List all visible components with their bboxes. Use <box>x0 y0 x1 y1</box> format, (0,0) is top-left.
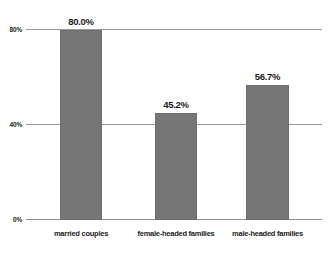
plot-area: 80% 40% 0% 80.0% married couples 45.2% f… <box>26 29 322 220</box>
x-tick-label-female-headed-families: female-headed families <box>137 229 214 238</box>
bar-male-headed-families[interactable]: 56.7% male-headed families <box>246 85 289 220</box>
x-tick-label-married-couples: married couples <box>54 229 108 238</box>
bar-value-label: 56.7% <box>255 71 280 82</box>
x-tick-label-male-headed-families: male-headed families <box>232 229 303 238</box>
bar-female-headed-families[interactable]: 45.2% female-headed families <box>155 113 197 220</box>
y-tick-label-0: 0% <box>13 216 22 223</box>
bar-value-label: 80.0% <box>68 16 93 27</box>
y-tick-label-40: 40% <box>10 121 22 128</box>
y-tick-label-80: 80% <box>10 26 22 33</box>
bar-chart: 80% 40% 0% 80.0% married couples 45.2% f… <box>0 0 333 255</box>
bar-value-label: 45.2% <box>163 99 188 110</box>
bar-married-couples[interactable]: 80.0% married couples <box>60 30 102 220</box>
